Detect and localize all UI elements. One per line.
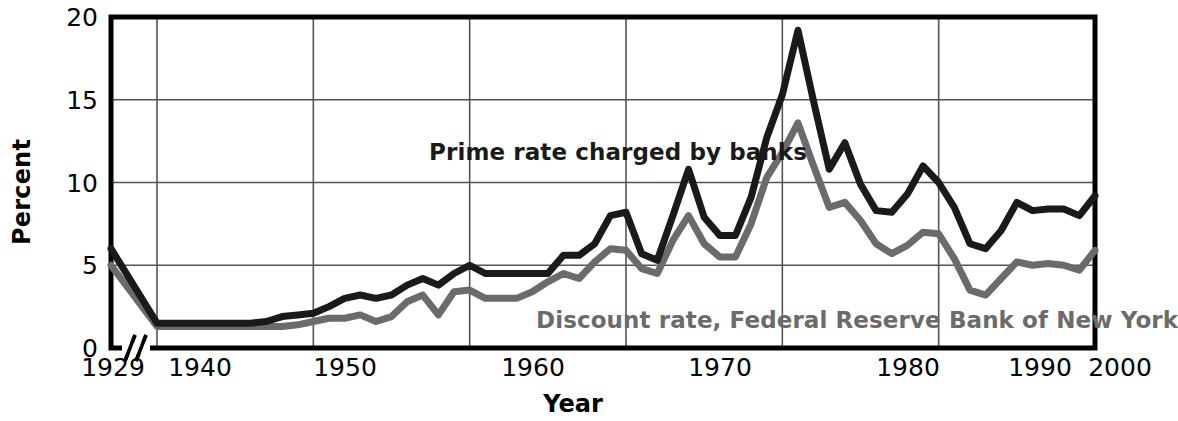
x-axis-break-marker xyxy=(122,335,150,361)
series-label-prime-rate: Prime rate charged by banks xyxy=(429,139,807,165)
gridlines xyxy=(111,17,1095,348)
series-label-discount-rate: Discount rate, Federal Reserve Bank of N… xyxy=(536,307,1178,333)
series-line-prime-rate xyxy=(111,30,1095,323)
